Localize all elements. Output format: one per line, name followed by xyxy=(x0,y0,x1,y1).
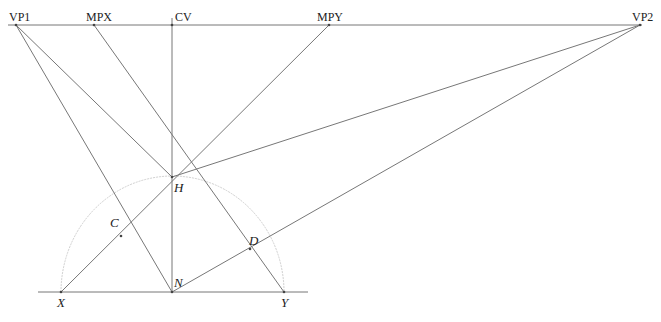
label-mpy: MPY xyxy=(317,10,343,24)
line-vp2-n xyxy=(172,25,640,292)
point-x xyxy=(60,291,63,294)
point-h xyxy=(171,176,174,179)
label-cv: CV xyxy=(175,10,192,24)
label-c: C xyxy=(110,215,119,230)
perspective-diagram: VP1 MPX CV MPY VP2 H C D N X Y xyxy=(0,0,661,322)
line-vp1-n xyxy=(16,25,172,292)
point-mpy xyxy=(328,24,331,27)
line-mpy-x xyxy=(61,25,329,292)
label-n: N xyxy=(173,275,184,290)
point-c xyxy=(120,235,123,238)
point-y xyxy=(283,291,286,294)
label-d: D xyxy=(248,233,259,248)
point-vp2 xyxy=(639,24,642,27)
point-cv xyxy=(171,24,174,27)
label-mpx: MPX xyxy=(86,10,112,24)
point-d xyxy=(249,248,252,251)
point-mpx xyxy=(93,24,96,27)
point-vp1 xyxy=(15,24,18,27)
line-vp2-h xyxy=(172,25,640,177)
label-h: H xyxy=(173,180,184,195)
label-vp2: VP2 xyxy=(632,10,653,24)
point-n xyxy=(171,291,174,294)
label-vp1: VP1 xyxy=(9,10,30,24)
line-mpx-y xyxy=(94,25,284,292)
label-y: Y xyxy=(281,295,290,310)
label-x: X xyxy=(56,295,66,310)
